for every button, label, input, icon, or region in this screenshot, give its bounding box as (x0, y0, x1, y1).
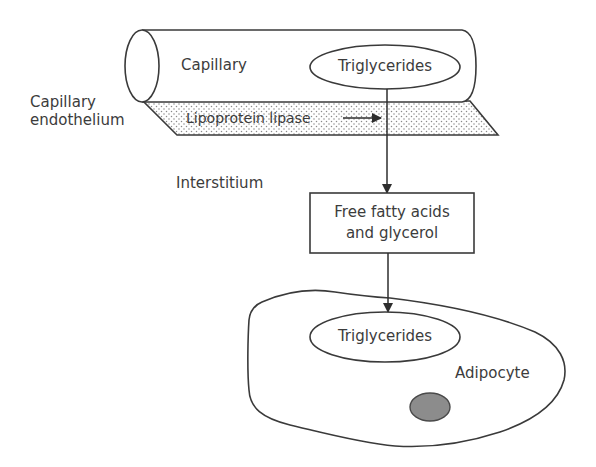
lipoprotein-lipase-diagram: Capillary Triglycerides Capillary endoth… (0, 0, 596, 467)
nucleus-icon (410, 393, 450, 421)
free-fatty-acids-label-line2: and glycerol (310, 224, 474, 242)
free-fatty-acids-box (310, 193, 474, 253)
free-fatty-acids-label-line1: Free fatty acids (310, 203, 474, 221)
lipoprotein-lipase-label: Lipoprotein lipase (186, 109, 311, 127)
endothelium-label-line1: Capillary (30, 93, 96, 111)
interstitium-label: Interstitium (176, 174, 263, 192)
capillary-opening (125, 30, 159, 102)
capillary-label: Capillary (181, 56, 247, 74)
adipocyte-triglycerides-label: Triglycerides (310, 327, 460, 345)
diagram-graphics (0, 0, 596, 467)
endothelium-label-line2: endothelium (30, 111, 125, 129)
adipocyte-label: Adipocyte (455, 364, 530, 382)
capillary-triglycerides-label: Triglycerides (310, 57, 460, 75)
